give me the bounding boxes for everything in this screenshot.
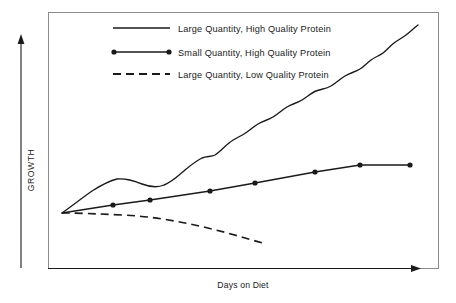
data-point-marker — [252, 180, 257, 185]
series-large-low-line — [62, 213, 266, 244]
data-point-marker — [312, 169, 317, 174]
x-axis — [48, 265, 421, 272]
legend-marker-dot — [111, 49, 116, 54]
data-point-marker — [357, 162, 362, 167]
data-point-marker — [147, 197, 152, 202]
y-axis — [18, 34, 25, 268]
y-axis-title: GROWTH — [26, 149, 36, 191]
data-point-marker — [407, 162, 412, 167]
legend-marker-dot — [166, 49, 171, 54]
legend-entry-small-high: Small Quantity, High Quality Protein — [111, 48, 330, 58]
legend-label-small-high: Small Quantity, High Quality Protein — [178, 48, 331, 58]
x-axis-arrowhead — [411, 265, 421, 272]
data-point-marker — [110, 202, 115, 207]
legend-entry-large-low: Large Quantity, Low Quality Protein — [113, 70, 329, 80]
legend-label-large-high: Large Quantity, High Quality Protein — [178, 24, 331, 34]
legend-entry-large-high: Large Quantity, High Quality Protein — [113, 24, 331, 34]
chart-legend: Large Quantity, High Quality Protein Sma… — [111, 24, 331, 80]
legend-label-large-low: Large Quantity, Low Quality Protein — [178, 70, 329, 80]
series-small-high — [62, 162, 413, 213]
growth-vs-days-on-diet-chart: GROWTH Days on Diet Large Quantity, High… — [0, 0, 456, 303]
data-point-marker — [207, 188, 212, 193]
x-axis-title: Days on Diet — [217, 280, 269, 290]
y-axis-arrowhead — [18, 34, 25, 44]
